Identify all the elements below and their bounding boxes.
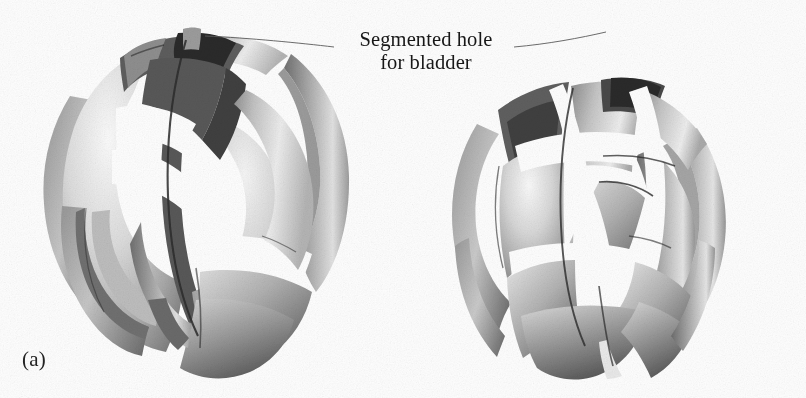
sphere-a-shell-group (43, 28, 349, 379)
figure-container: (a) (0, 0, 806, 398)
subfigure-label-a: (a) (22, 347, 46, 372)
callout-line-1: Segmented hole (360, 28, 493, 50)
callout-label: Segmented hole for bladder (336, 28, 516, 74)
segmented-hole-a-notch (183, 28, 201, 51)
callout-line-2: for bladder (336, 51, 516, 74)
sphere-b-shell-group (452, 77, 726, 379)
